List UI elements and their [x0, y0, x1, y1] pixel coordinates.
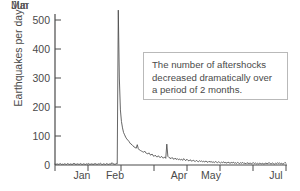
- annotation-text: The number of aftershocks decreased dram…: [152, 59, 284, 97]
- x-tick-marks: [55, 165, 286, 171]
- annotation-box: The number of aftershocks decreased dram…: [143, 52, 288, 100]
- annotation-line-1: The number of aftershocks: [152, 59, 284, 72]
- y-tick-marks: [55, 20, 61, 136]
- earthquake-aftershock-chart: 500 400 300 200 100 0 Earthquakes per da…: [0, 0, 300, 191]
- annotation-line-3: a period of 2 months.: [152, 84, 284, 97]
- annotation-line-2: decreased dramatically over: [152, 72, 284, 85]
